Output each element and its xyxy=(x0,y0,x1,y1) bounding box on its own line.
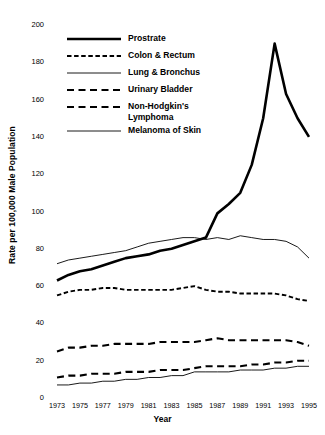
legend-label: Prostrate xyxy=(122,33,166,44)
legend-label: Urinary Bladder xyxy=(122,84,192,95)
legend-item: Colon & Rectum xyxy=(66,50,236,67)
legend-swatch xyxy=(66,125,122,139)
x-axis-title: Year xyxy=(0,414,325,424)
legend-item: Melanoma of Skin xyxy=(66,125,236,142)
legend-swatch xyxy=(66,101,122,115)
series-line xyxy=(57,236,309,264)
y-tick-label: 160 xyxy=(18,95,44,104)
legend-label: Colon & Rectum xyxy=(122,50,195,61)
series-line xyxy=(57,338,309,351)
y-tick-label: 100 xyxy=(18,207,44,216)
y-tick-label: 0 xyxy=(18,393,44,402)
legend-item: Urinary Bladder xyxy=(66,84,236,101)
chart-legend: ProstrateColon & RectumLung & BronchusUr… xyxy=(66,33,236,142)
x-tick-label: 1995 xyxy=(294,401,324,410)
y-tick-label: 20 xyxy=(18,356,44,365)
y-tick-label: 180 xyxy=(18,57,44,66)
legend-label: Non-Hodgkin's Lymphoma xyxy=(122,101,189,123)
y-tick-label: 40 xyxy=(18,318,44,327)
legend-label: Melanoma of Skin xyxy=(122,125,201,136)
y-tick-label: 60 xyxy=(18,281,44,290)
legend-swatch xyxy=(66,33,122,47)
series-line xyxy=(57,286,309,301)
legend-item: Lung & Bronchus xyxy=(66,67,236,84)
legend-swatch xyxy=(66,84,122,98)
y-tick-label: 120 xyxy=(18,169,44,178)
legend-swatch xyxy=(66,67,122,81)
y-tick-label: 200 xyxy=(18,20,44,29)
legend-swatch xyxy=(66,50,122,64)
legend-item: Non-Hodgkin's Lymphoma xyxy=(66,101,236,125)
y-tick-label: 80 xyxy=(18,244,44,253)
legend-label: Lung & Bronchus xyxy=(122,67,200,78)
y-tick-label: 140 xyxy=(18,132,44,141)
chart-container: Rate per 100,000 Male Population 0204060… xyxy=(0,0,325,435)
legend-item: Prostrate xyxy=(66,33,236,50)
